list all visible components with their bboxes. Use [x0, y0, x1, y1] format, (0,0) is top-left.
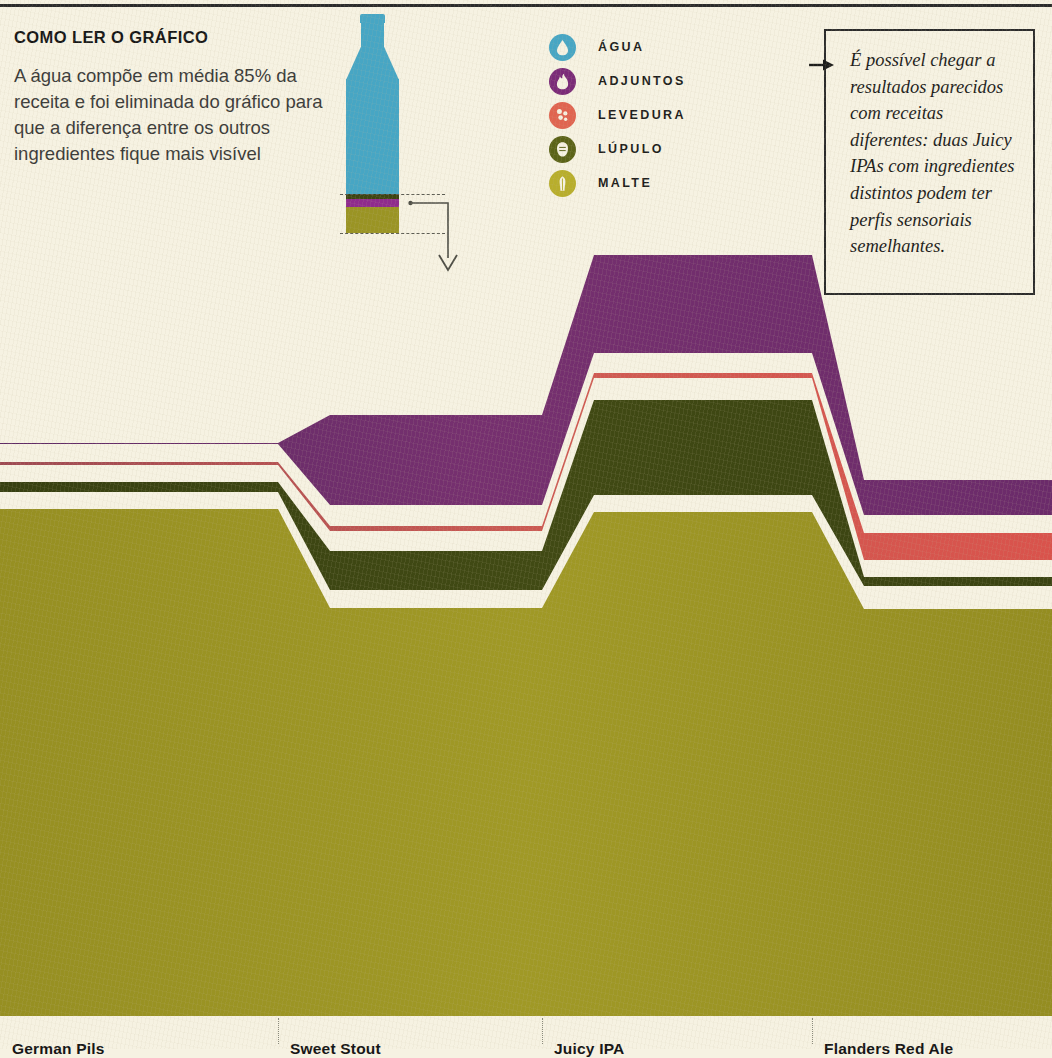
bottle-band-adjuntos [346, 199, 399, 207]
bottle-shoulder [346, 47, 399, 80]
water-drop-icon [549, 34, 576, 61]
callout-arrow-down-icon [408, 200, 460, 274]
how-to-read-title: COMO LER O GRÁFICO [14, 28, 334, 47]
legend-item-lupulo[interactable]: LÚPULO [549, 132, 686, 166]
how-to-read-block: COMO LER O GRÁFICO A água compõe em médi… [14, 28, 334, 167]
x-axis-label-german-pils: German Pils [12, 1040, 105, 1058]
yeast-cells-icon [549, 102, 576, 129]
x-axis-separator [542, 1018, 543, 1044]
annotation-pointer-arrow-icon [809, 57, 835, 73]
how-to-read-body: A água compõe em média 85% da receita e … [14, 63, 334, 167]
legend-label-levedura: LEVEDURA [598, 108, 686, 122]
bottle-body-agua [346, 79, 399, 194]
legend-item-levedura[interactable]: LEVEDURA [549, 98, 686, 132]
chart-legend: ÁGUA ADJUNTOS LEVEDURA LÚPULO [549, 30, 686, 200]
x-axis-label-juicy-ipa: Juicy IPA [554, 1040, 624, 1058]
bottle-band-malte [346, 207, 399, 233]
x-axis-label-sweet-stout: Sweet Stout [290, 1040, 381, 1058]
hop-cone-icon [549, 136, 576, 163]
annotation-callout-box: É possível chegar a resultados parecidos… [824, 29, 1035, 295]
legend-label-adjuntos: ADJUNTOS [598, 74, 686, 88]
legend-item-adjuntos[interactable]: ADJUNTOS [549, 64, 686, 98]
x-axis-separator [278, 1018, 279, 1044]
legend-item-malte[interactable]: MALTE [549, 166, 686, 200]
grain-icon [549, 170, 576, 197]
callout-dashed-line-top [340, 194, 445, 195]
chart-x-axis: German Pils Sweet Stout Juicy IPA Flande… [0, 1018, 1052, 1049]
flame-icon [549, 68, 576, 95]
x-axis-label-flanders-red-ale: Flanders Red Ale [824, 1040, 953, 1058]
bottle-neck [361, 22, 384, 48]
legend-label-lupulo: LÚPULO [598, 142, 664, 156]
x-axis-separator [812, 1018, 813, 1044]
legend-label-malte: MALTE [598, 176, 652, 190]
legend-item-agua[interactable]: ÁGUA [549, 30, 686, 64]
beer-bottle-illustration [330, 14, 460, 264]
legend-label-agua: ÁGUA [598, 40, 644, 54]
top-divider-rule [0, 4, 1052, 7]
annotation-callout-text: É possível chegar a resultados parecidos… [826, 31, 1033, 260]
